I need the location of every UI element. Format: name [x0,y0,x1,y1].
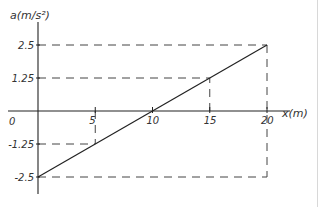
x-tick-label: 5 [89,115,95,126]
y-tick-label: 1.25 [12,73,34,84]
origin-label: 0 [9,116,15,127]
y-tick-label: -2.5 [14,172,34,183]
x-axis-label: x(m) [281,107,308,120]
x-tick-label: 15 [204,115,217,126]
x-tick-label: 20 [261,115,274,126]
y-tick-label: -1.25 [8,139,34,150]
y-axis-label: a(m/s²) [10,9,50,22]
axes [8,22,290,194]
x-tick-label: 10 [147,115,160,126]
y-tick-label: 2.5 [18,40,34,51]
acceleration-vs-position-chart: 51015202.51.25-1.25-2.5 a(m/s²) x(m) 0 [0,0,320,207]
